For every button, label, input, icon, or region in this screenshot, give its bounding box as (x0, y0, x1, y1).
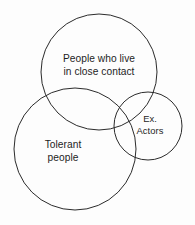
venn-diagram: People who live in close contact Toleran… (0, 0, 195, 225)
venn-diagram-canvas (0, 0, 195, 225)
circle-tolerant-people[interactable] (14, 88, 136, 210)
circle-close-contact[interactable] (41, 14, 157, 130)
